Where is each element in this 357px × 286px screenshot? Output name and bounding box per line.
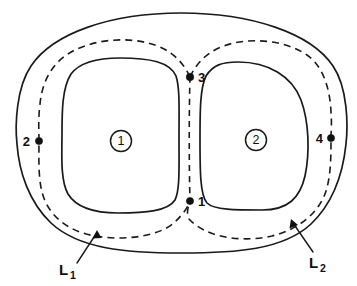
contour-L2-label: L — [309, 254, 318, 271]
node-4-dot — [327, 134, 334, 141]
node-1-label: 1 — [198, 194, 205, 209]
leader-L2-line — [293, 223, 313, 252]
node-3-label: 3 — [198, 70, 205, 85]
node-3-dot — [186, 73, 194, 81]
node-2-dot — [35, 137, 42, 144]
contour-L1-label: L — [59, 261, 68, 278]
shared-dashed-segment-group — [189, 77, 190, 201]
figure-container: 1 2 1 2 3 4 L 1 — [0, 0, 357, 286]
region-2-label: 2 — [253, 133, 260, 147]
leader-L1-arrowhead — [93, 230, 102, 239]
node-4-label: 4 — [316, 131, 324, 146]
node-2-label: 2 — [23, 134, 30, 149]
node-1-group: 1 — [186, 194, 205, 209]
region-label-2-group: 2 — [246, 130, 267, 151]
contour-L2-subscript: 2 — [320, 262, 326, 274]
node-1-dot — [186, 197, 193, 204]
shared-dashed-segment-path — [189, 77, 190, 201]
region-1-label: 1 — [118, 134, 125, 148]
diagram-svg: 1 2 1 2 3 4 L 1 — [0, 0, 357, 286]
region-label-1-group: 1 — [111, 131, 132, 152]
leader-L1-group: L 1 — [59, 230, 102, 281]
node-3-group: 3 — [186, 70, 205, 85]
contour-L1-subscript: 1 — [70, 269, 76, 281]
